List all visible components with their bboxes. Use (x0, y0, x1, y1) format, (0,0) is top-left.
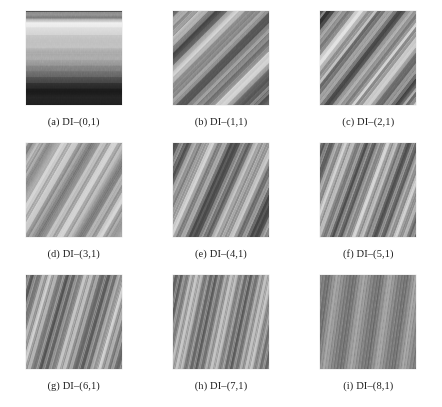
texture-figure: (a) DI–(0,1) (b) DI–(1,1) (c) DI–(2,1) (… (0, 0, 442, 407)
figure-panel-b: (b) DI–(1,1) (147, 11, 294, 143)
panel-caption-e: (e) DI–(4,1) (195, 248, 247, 260)
texture-image-e (173, 143, 269, 237)
figure-panel-g: (g) DI–(6,1) (0, 275, 147, 407)
figure-panel-d: (d) DI–(3,1) (0, 143, 147, 275)
panel-caption-a: (a) DI–(0,1) (48, 116, 100, 128)
panel-caption-g: (g) DI–(6,1) (47, 380, 100, 392)
figure-panel-e: (e) DI–(4,1) (147, 143, 294, 275)
texture-image-b (173, 11, 269, 105)
panel-caption-d: (d) DI–(3,1) (47, 248, 100, 260)
panel-caption-c: (c) DI–(2,1) (342, 116, 394, 128)
texture-image-a (26, 11, 122, 105)
figure-panel-f: (f) DI–(5,1) (295, 143, 442, 275)
texture-image-g (26, 275, 122, 369)
texture-image-i (320, 275, 416, 369)
figure-panel-c: (c) DI–(2,1) (295, 11, 442, 143)
texture-image-c (320, 11, 416, 105)
panel-caption-i: (i) DI–(8,1) (343, 380, 393, 392)
panel-grid: (a) DI–(0,1) (b) DI–(1,1) (c) DI–(2,1) (… (0, 0, 442, 407)
figure-panel-h: (h) DI–(7,1) (147, 275, 294, 407)
texture-image-h (173, 275, 269, 369)
panel-caption-f: (f) DI–(5,1) (343, 248, 394, 260)
panel-caption-b: (b) DI–(1,1) (195, 116, 248, 128)
panel-caption-h: (h) DI–(7,1) (195, 380, 248, 392)
texture-image-f (320, 143, 416, 237)
figure-panel-i: (i) DI–(8,1) (295, 275, 442, 407)
texture-image-d (26, 143, 122, 237)
figure-panel-a: (a) DI–(0,1) (0, 11, 147, 143)
